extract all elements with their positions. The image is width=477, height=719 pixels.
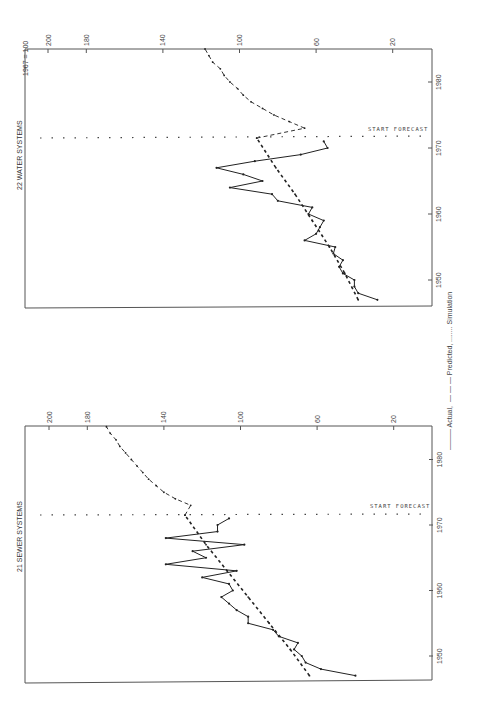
simulation-point: [237, 88, 239, 90]
predicted-line: [185, 515, 309, 675]
legend-simulation: ........ Simulation: [446, 292, 453, 342]
actual-point: [205, 557, 207, 559]
simulation-point: [262, 108, 264, 110]
bottom-frame: [25, 680, 432, 683]
simulation-point: [106, 426, 108, 428]
value-tick-label: 20: [390, 415, 397, 423]
actual-point: [228, 603, 230, 605]
value-axis-ticks: 2060100140180200: [46, 411, 398, 430]
value-tick-label: 200: [45, 34, 52, 46]
value-tick-label: 140: [160, 411, 167, 423]
actual-point: [353, 279, 355, 281]
actual-point: [277, 200, 279, 202]
year-tick-label: 1970: [435, 140, 442, 156]
simulation-point: [190, 504, 192, 506]
value-tick-label: 60: [313, 38, 320, 46]
actual-point: [216, 524, 218, 526]
actual-point: [229, 187, 231, 189]
value-tick-label: 200: [46, 411, 53, 423]
simulation-point: [115, 439, 117, 441]
simulation-point: [256, 137, 258, 139]
actual-point: [192, 550, 194, 552]
simulation-point: [223, 75, 225, 77]
simulation-point: [204, 48, 206, 50]
simulation-point: [229, 81, 231, 83]
actual-point: [293, 648, 295, 650]
actual-point: [301, 655, 303, 657]
start-forecast-label: START FORECAST: [368, 126, 428, 132]
actual-point: [354, 675, 356, 677]
value-tick-label: 20: [389, 38, 396, 46]
actual-point: [353, 286, 355, 288]
year-tick-label: 1950: [436, 648, 443, 664]
simulation-point: [142, 472, 144, 474]
actual-point: [323, 220, 325, 222]
actual-point: [228, 517, 230, 519]
legend-predicted: — — — Predicted,: [446, 344, 453, 402]
value-axis-ticks: 2060100140180200: [45, 34, 397, 53]
predicted-point: [268, 622, 270, 624]
simulation-point: [163, 491, 165, 493]
simulation-point: [109, 432, 111, 434]
series-lines: [204, 48, 378, 301]
chart-frame: [25, 426, 432, 683]
actual-point: [201, 576, 203, 578]
simulation-point: [288, 121, 290, 123]
simulation-point: [136, 465, 138, 467]
index-base-label: 1967 = 100: [22, 41, 29, 76]
value-tick-label: 180: [83, 34, 90, 46]
simulation-point: [125, 452, 127, 454]
start-forecast-label: START FORECAST: [370, 503, 430, 509]
predicted-point: [247, 596, 249, 598]
predicted-point: [205, 544, 207, 546]
predicted-point: [289, 649, 291, 651]
predicted-point: [329, 246, 331, 248]
simulation-point: [250, 101, 252, 103]
simulation-point: [184, 514, 186, 516]
actual-point: [215, 167, 217, 169]
simulation-point: [155, 485, 157, 487]
actual-point: [236, 609, 238, 611]
actual-point: [319, 226, 321, 228]
simulation-point: [130, 459, 132, 461]
legend-actual: ——— Actual,: [446, 406, 453, 450]
year-axis-ticks: 1950196019701980: [428, 74, 442, 288]
value-tick-label: 180: [84, 411, 91, 423]
value-tick-label: 140: [159, 34, 166, 46]
simulation-point: [148, 478, 150, 480]
bottom-frame: [25, 306, 432, 308]
actual-point: [315, 233, 317, 235]
sewer-systems-chart: 2060100140180200 1950196019701980 21 SEW…: [16, 411, 443, 683]
chart-title: 21 SEWER SYSTEMS: [16, 501, 23, 572]
legend: ——— Actual, — — — Predicted, ........ Si…: [446, 292, 453, 450]
actual-line: [217, 141, 378, 299]
forecast-start-line: [40, 514, 430, 515]
figure: 2060100140180200 1950196019701980 1967 =…: [0, 0, 477, 719]
chart-title: 22 WATER SYSTEMS: [16, 120, 23, 190]
year-tick-label: 1950: [435, 272, 442, 288]
series-lines: [106, 426, 357, 677]
actual-point: [220, 596, 222, 598]
water-systems-chart: 2060100140180200 1950196019701980 1967 =…: [16, 34, 442, 308]
simulation-point: [242, 94, 244, 96]
predicted-point: [275, 167, 277, 169]
actual-point: [342, 259, 344, 261]
simulation-point: [174, 498, 176, 500]
actual-point: [300, 154, 302, 156]
year-axis-ticks: 1950196019701980: [429, 452, 443, 664]
value-tick-label: 60: [314, 415, 321, 423]
simulation-point: [119, 446, 121, 448]
actual-point: [332, 253, 334, 255]
actual-point: [326, 147, 328, 149]
predicted-point: [226, 570, 228, 572]
actual-point: [376, 299, 378, 301]
simulation-point: [212, 61, 214, 63]
predicted-point: [311, 220, 313, 222]
actual-point: [243, 544, 245, 546]
year-tick-label: 1980: [436, 452, 443, 468]
predicted-line: [257, 138, 358, 300]
predicted-point: [357, 299, 359, 301]
simulation-point: [273, 114, 275, 116]
actual-point: [236, 570, 238, 572]
predicted-point: [309, 675, 311, 677]
